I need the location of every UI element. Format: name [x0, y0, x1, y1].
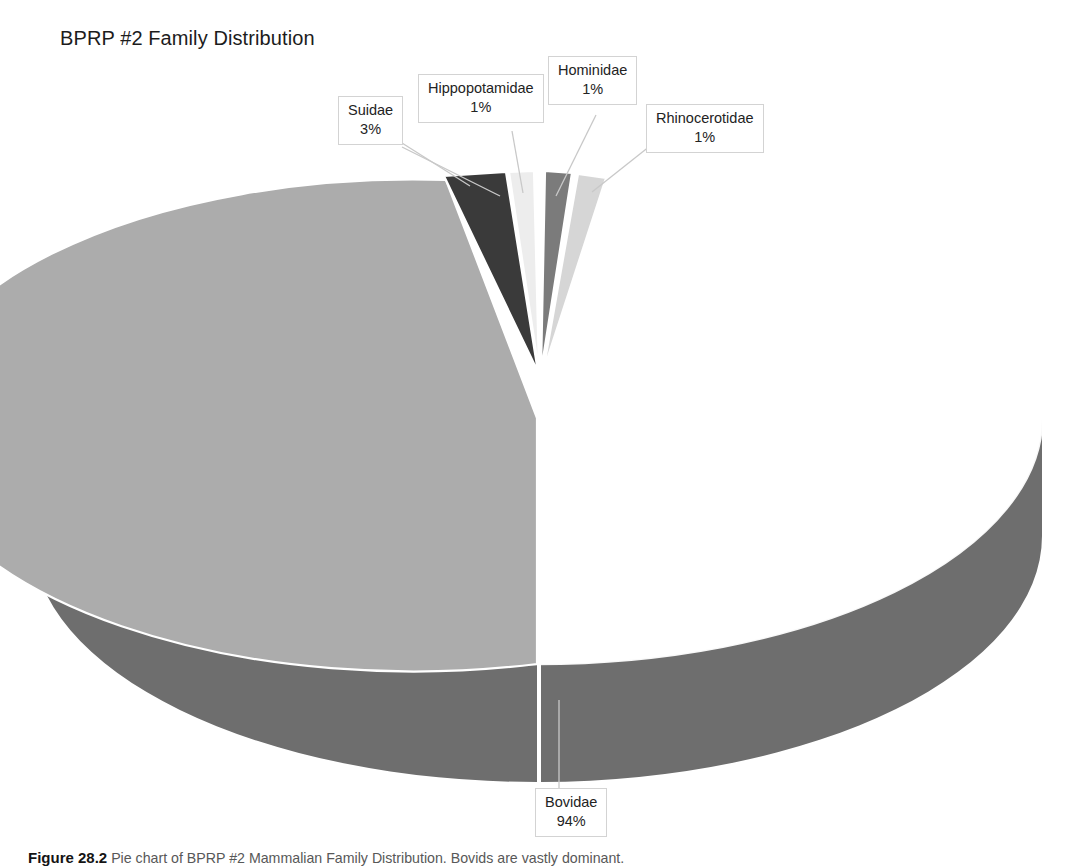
callout-hominidae-label: Hominidae — [558, 61, 627, 80]
bovidae-side-split — [537, 664, 541, 782]
pie-chart-svg — [0, 0, 1077, 840]
bovidae-side-right — [541, 418, 1042, 782]
figure-caption: Figure 28.2 Pie chart of BPRP #2 Mammali… — [28, 848, 1058, 867]
callout-bovidae-percent: 94% — [545, 812, 597, 831]
callout-hominidae[interactable]: Hominidae 1% — [548, 56, 637, 105]
callout-rhinocerotidae-label: Rhinocerotidae — [656, 109, 754, 128]
callout-bovidae[interactable]: Bovidae 94% — [535, 788, 607, 837]
pie-chart: Suidae 3% Hippopotamidae 1% Hominidae 1%… — [0, 0, 1077, 840]
figure-caption-number: Figure 28.2 — [28, 849, 107, 866]
callout-hippopotamidae[interactable]: Hippopotamidae 1% — [418, 74, 544, 123]
callout-bovidae-label: Bovidae — [545, 793, 597, 812]
leader-line-rhinocerotidae — [592, 146, 650, 192]
callout-suidae[interactable]: Suidae 3% — [338, 96, 403, 145]
chart-page: BPRP #2 Family Distribution — [0, 0, 1077, 867]
callout-hominidae-percent: 1% — [558, 80, 627, 99]
callout-rhinocerotidae-percent: 1% — [656, 128, 754, 147]
callout-rhinocerotidae[interactable]: Rhinocerotidae 1% — [646, 104, 764, 153]
callout-hippopotamidae-percent: 1% — [428, 98, 534, 117]
callout-suidae-label: Suidae — [348, 101, 393, 120]
pie-top-surface — [0, 171, 606, 671]
callout-hippopotamidae-label: Hippopotamidae — [428, 79, 534, 98]
callout-suidae-percent: 3% — [348, 120, 393, 139]
pie-slice-bovidae[interactable] — [0, 179, 537, 671]
figure-caption-text: Pie chart of BPRP #2 Mammalian Family Di… — [111, 850, 624, 866]
